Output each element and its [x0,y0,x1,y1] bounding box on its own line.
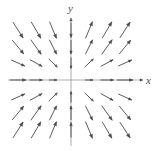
arrow-head [70,51,73,54]
field-vector [117,79,133,82]
field-vector [102,22,112,38]
arrow-head [19,122,23,126]
arrow-head [54,50,57,54]
field-vector [85,40,92,54]
field-vector [50,122,57,139]
field-vector [30,79,43,81]
arrow-head [70,106,73,109]
arrow-head [126,22,130,26]
field-vector [118,60,132,66]
field-vector [10,79,26,82]
field-vector [85,79,93,81]
arrow-head [38,106,42,110]
field-vector [30,94,42,101]
arrow-head [70,123,73,126]
field-vector [49,79,57,81]
field-vector [101,94,113,101]
field-vector [12,106,24,120]
field-vector [120,122,130,138]
arrow-head [22,79,26,82]
arrow-head [110,60,113,63]
y-axis-label: y [68,3,73,14]
field-vector [13,122,23,138]
arrow-head [89,134,92,138]
field-vector [119,106,131,120]
field-vector [86,122,93,139]
field-vector [70,58,72,69]
field-vector [49,93,58,101]
arrow-head [70,66,72,69]
arrow-head [70,18,73,21]
arrow-head [108,134,112,138]
field-vector [120,22,130,38]
field-vector [11,94,25,100]
arrow-head [54,106,57,110]
field-vector [50,22,57,39]
arrow-head [39,94,42,97]
arrow-head [90,79,93,81]
field-vector [101,60,113,67]
field-vector [31,22,41,38]
arrow-head [90,40,93,44]
field-vector [70,92,72,103]
field-vector [31,40,41,55]
field-vector [102,122,112,138]
direction-field-figure: y x [0,0,161,151]
arrow-head [108,22,112,26]
arrow-head [54,79,57,81]
arrow-head [128,60,132,63]
arrow-head [140,79,143,82]
field-vector [30,60,42,67]
arrow-head [53,34,56,38]
arrow-head [90,116,93,120]
arrow-head [129,79,133,82]
field-vector [118,94,132,100]
arrow-head [89,22,92,26]
arrow-head [37,122,41,126]
arrow-head [38,50,42,54]
field-vector [102,106,112,121]
field-vector [70,40,73,54]
field-vector [86,22,93,39]
field-vector [11,60,25,66]
arrow-head [37,34,41,38]
field-vector [70,23,73,38]
field-vector [49,40,56,54]
field-vector [49,106,56,120]
direction-field-plot [0,0,161,151]
arrow-head [126,134,130,138]
arrow-head [128,97,132,100]
field-vector [101,79,114,81]
x-axis-label: x [146,75,151,86]
arrow-head [21,63,25,66]
arrow-head [19,34,23,38]
field-vector [70,123,73,138]
field-vector [102,40,112,55]
field-vector [31,106,41,121]
arrow-head [21,94,25,97]
field-vector [13,22,23,38]
field-vector [70,106,73,120]
arrow-head [109,116,113,120]
field-vector [31,122,41,138]
field-vector [85,106,92,120]
arrow-head [53,122,56,126]
field-vector [49,59,58,67]
arrow-head [110,98,113,101]
field-vector [85,59,94,67]
arrow-head [70,34,73,37]
arrow-head [111,79,114,81]
field-vector [85,93,94,101]
arrow-head [109,40,113,44]
arrow-head [40,79,43,81]
arrow-head [70,92,72,95]
field-vector [12,40,24,54]
field-vector [119,40,131,54]
arrow-head [39,64,42,67]
